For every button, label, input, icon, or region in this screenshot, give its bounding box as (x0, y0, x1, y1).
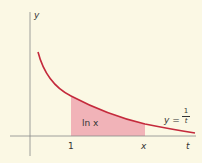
t-axis-label: t (186, 142, 190, 151)
curve-label-denominator: t (182, 118, 190, 125)
area-label-ln-x: ln x (82, 119, 98, 128)
ln-x-area-diagram: y t 1 x ln x y = 1 t (0, 0, 202, 163)
tick-label-x: x (141, 142, 146, 151)
y-axis-label: y (34, 11, 39, 20)
tick-label-one: 1 (68, 142, 74, 151)
curve-label-numerator: 1 (182, 108, 190, 115)
diagram-canvas (0, 0, 202, 163)
curve-label-lhs: y = (164, 116, 180, 125)
